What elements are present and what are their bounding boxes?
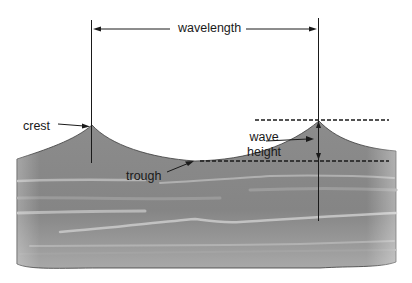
crest-label: crest — [23, 120, 50, 133]
water-edge-fade — [17, 120, 397, 270]
wave-height-label-line2: height — [247, 145, 281, 160]
wave-height-label: wave height — [247, 130, 281, 160]
trough-label: trough — [126, 170, 161, 183]
wavelength-label: wavelength — [174, 22, 245, 35]
wave-height-label-line1: wave — [247, 130, 281, 145]
wave-illustration — [0, 0, 412, 283]
wave-diagram: wavelength crest trough wave height — [0, 0, 412, 283]
